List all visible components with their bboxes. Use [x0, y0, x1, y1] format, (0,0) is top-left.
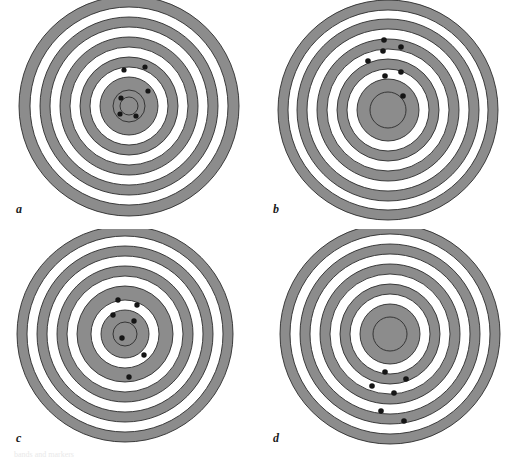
panel-b: b	[257, 0, 514, 229]
marker-dot	[133, 113, 138, 118]
caption-strip: bands and markers	[0, 450, 514, 459]
marker-dot	[134, 302, 139, 307]
marker-dot	[400, 93, 406, 99]
panel-d-label: d	[273, 432, 279, 444]
marker-dot	[110, 312, 115, 317]
ring-c-9	[113, 322, 137, 346]
marker-dot	[117, 111, 122, 116]
marker-dot	[401, 418, 407, 424]
panel-d: d	[257, 229, 514, 458]
ring-d-9	[373, 317, 407, 351]
marker-dot	[380, 48, 386, 54]
marker-dot	[145, 88, 150, 93]
marker-dot	[391, 390, 397, 396]
panel-d-diagram	[257, 229, 514, 458]
marker-dot	[141, 352, 146, 357]
marker-dot	[398, 69, 404, 75]
marker-dot	[378, 408, 384, 414]
marker-dot	[403, 376, 409, 382]
marker-dot	[119, 335, 124, 340]
marker-dot	[115, 297, 120, 302]
panel-c-label: c	[16, 432, 21, 444]
marker-dot	[382, 73, 388, 79]
panel-b-label: b	[273, 203, 279, 215]
marker-dot	[365, 58, 371, 64]
marker-dot	[126, 374, 131, 379]
panel-c-diagram	[0, 229, 257, 458]
figure-root: a b c d bands and markers	[0, 0, 514, 459]
marker-dot	[381, 37, 387, 43]
panel-a: a	[0, 0, 257, 229]
marker-dot	[121, 67, 126, 72]
marker-dot	[142, 64, 147, 69]
panel-c: c	[0, 229, 257, 458]
caption-text: bands and markers	[14, 450, 74, 459]
panel-a-label: a	[16, 203, 22, 215]
marker-dot	[131, 318, 136, 323]
panel-a-diagram	[0, 0, 257, 229]
marker-dot	[118, 95, 123, 100]
panel-b-diagram	[257, 0, 514, 229]
marker-dot	[398, 44, 404, 50]
marker-dot	[369, 383, 375, 389]
marker-dot	[382, 369, 388, 375]
